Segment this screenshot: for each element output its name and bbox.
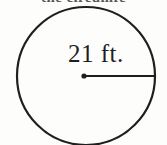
- circle-diagram-svg: 21 ft.: [0, 0, 167, 145]
- circle-radius-figure: the circumfe 21 ft.: [0, 0, 167, 145]
- center-dot: [81, 73, 86, 78]
- radius-measurement-label: 21 ft.: [68, 40, 124, 67]
